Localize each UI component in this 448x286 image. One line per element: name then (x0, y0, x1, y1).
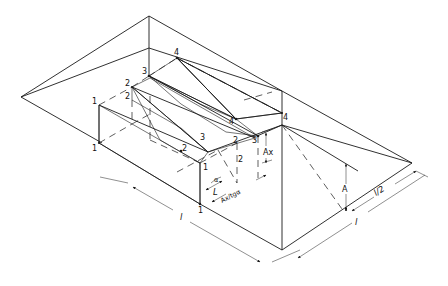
dim-l-right-a (298, 223, 352, 258)
label-point-3: 3 (252, 136, 257, 145)
roof-edge-top-ridge (149, 16, 282, 91)
roof-envelope (21, 16, 412, 250)
plane-3-upper (149, 58, 236, 119)
label-l-half: l/2 (372, 183, 386, 197)
vertex-dot (235, 118, 238, 121)
label-point-3: 3 (142, 67, 147, 76)
vertex-dot (98, 142, 100, 144)
roof-diagram: l l l/2 A Ax L Ax/tgα α 1 1 1 1 (0, 0, 448, 286)
label-point-1: 1 (92, 144, 97, 153)
label-point-1: 1 (198, 206, 203, 215)
label-point-2: 2 (182, 144, 187, 153)
roof-edge-front-base (200, 204, 282, 250)
label-Ax: Ax (263, 148, 273, 157)
plane4-diag (177, 58, 236, 119)
dash-base-2-3 (132, 114, 150, 124)
hip-right-upper (282, 125, 412, 163)
label-point-2: 2 (125, 92, 130, 101)
label-point-1: 1 (92, 97, 97, 106)
point-labels: 1 1 1 1 2 2 2 2 2 3 3 3 4 4 4 (92, 48, 288, 215)
dim-l-front-a (133, 187, 173, 210)
label-L: L (213, 187, 218, 197)
vertex-dot (131, 86, 133, 88)
dim-l-front-b (190, 222, 260, 262)
vertex-dot (257, 135, 260, 138)
dash-base-1-2 (99, 124, 132, 143)
label-point-2: 2 (233, 136, 238, 145)
dash-3-4 (149, 58, 177, 76)
vertex-dot (176, 57, 179, 60)
dim-half-b (395, 171, 416, 184)
dash-alpha (218, 150, 237, 183)
vertex-dot (345, 209, 347, 211)
label-alpha: α (214, 176, 218, 184)
label-l-front: l (180, 212, 183, 222)
label-point-3: 3 (200, 133, 205, 142)
dim-half-a (352, 197, 374, 211)
label-l-right: l (355, 217, 358, 227)
ext-Ax-bottom (262, 160, 272, 163)
roof-edge-top-right (282, 91, 412, 163)
plane-4 (177, 58, 282, 119)
label-point-1: 1 (203, 163, 208, 172)
ext-half (416, 171, 428, 177)
vertex-dot (180, 150, 183, 153)
roof-diagram-svg: l l l/2 A Ax L Ax/tgα α 1 1 1 1 (0, 0, 448, 286)
label-point-2: 2 (238, 155, 243, 164)
vertex-dot (281, 112, 283, 114)
dash-base-center (150, 140, 200, 163)
dash-2-3 (132, 76, 149, 87)
plane2-diag (132, 87, 208, 152)
ext-l-right (272, 250, 300, 262)
plane-2-lower (132, 87, 208, 163)
dimension-lines: l l l/2 A Ax L Ax/tgα α (100, 129, 428, 262)
label-A: A (342, 185, 348, 194)
inner-hip-right-top (149, 48, 282, 91)
roof-edge-right-base (282, 163, 412, 250)
dash-1-2-lower (200, 143, 237, 163)
dash-upper-right (244, 92, 272, 100)
hip-right-lower (282, 125, 358, 171)
dim-ratio-b (256, 175, 266, 180)
label-ratio: Ax/tgα (219, 188, 242, 205)
label-point-2: 2 (125, 79, 130, 88)
ext-l-left (100, 177, 128, 183)
label-point-4: 4 (174, 48, 179, 57)
inner-hip-left (21, 48, 149, 97)
vertex-dots (98, 57, 347, 211)
vertex-dot (148, 75, 151, 78)
vertex-dot (199, 203, 201, 205)
plane2-top (132, 87, 255, 138)
label-point-4: 4 (229, 117, 234, 126)
label-point-4: 4 (283, 113, 288, 122)
hip-dashed-down (282, 125, 342, 209)
roof-edge-left-lower (21, 97, 102, 143)
plane-outlines (99, 48, 282, 204)
